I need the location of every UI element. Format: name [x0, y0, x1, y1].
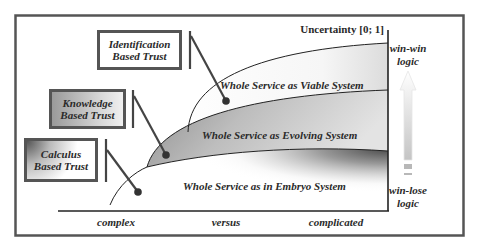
- evolving-label: Whole Service as Evolving System: [202, 129, 358, 141]
- win-win-logic-label: logic: [397, 55, 419, 67]
- win-lose-label: win-lose: [389, 184, 427, 196]
- knowledge-dot: [162, 151, 170, 159]
- x-label-complex: complex: [97, 216, 135, 228]
- calculus-line1: Calculus: [41, 148, 81, 160]
- knowledge-line1: Knowledge: [62, 97, 112, 109]
- win-win-label: win-win: [390, 42, 427, 54]
- calculus-line2: Based Trust: [34, 160, 88, 172]
- viable-label: Whole Service as Viable System: [220, 79, 364, 91]
- win-lose-logic-label: logic: [397, 197, 419, 209]
- trust-evolution-diagram: Whole Service as Viable System Whole Ser…: [0, 0, 477, 248]
- identification-dot: [222, 97, 230, 105]
- knowledge-line2: Based Trust: [60, 109, 114, 121]
- x-label-complicated: complicated: [309, 216, 364, 228]
- calculus-dot: [134, 188, 142, 196]
- y-axis-label: Uncertainty [0; 1]: [300, 23, 384, 35]
- identification-line1: Identification: [109, 38, 171, 50]
- embryo-label: Whole Service as in Embryo System: [183, 180, 346, 192]
- identification-line2: Based Trust: [112, 50, 166, 62]
- x-label-versus: versus: [212, 216, 241, 228]
- knowledge-trust-box: Knowledge Based Trust: [49, 89, 126, 129]
- calculus-trust-box: Calculus Based Trust: [24, 138, 98, 182]
- identification-trust-box: Identification Based Trust: [97, 30, 182, 70]
- logic-arrow-icon: [400, 71, 416, 175]
